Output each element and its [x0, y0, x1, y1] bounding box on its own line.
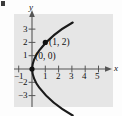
x-axis-label: x: [114, 64, 118, 73]
graph-figure: x y −1 1 2 3 4 5 3 2 1 −2 −3 (1, 2) (0, …: [0, 0, 122, 116]
y-tick-label-1: 1: [23, 51, 28, 60]
point-marker-1-2: [43, 40, 48, 45]
x-tick-label-1: 1: [43, 72, 48, 81]
x-tick-label-3: 3: [69, 72, 74, 81]
point-marker-origin: [29, 66, 34, 71]
point-label-origin: (0, 0): [35, 52, 56, 62]
x-tick-label-4: 4: [82, 72, 87, 81]
y-tick-label-2: 2: [23, 38, 28, 47]
y-axis-label: y: [29, 3, 33, 12]
y-tick-label-3: 3: [23, 25, 28, 34]
point-label-1-2: (1, 2): [49, 38, 70, 48]
x-tick-label-5: 5: [95, 72, 100, 81]
y-tick-label-neg3: −3: [18, 91, 28, 100]
y-tick-label-neg2: −2: [18, 78, 28, 87]
x-tick-label-2: 2: [56, 72, 61, 81]
